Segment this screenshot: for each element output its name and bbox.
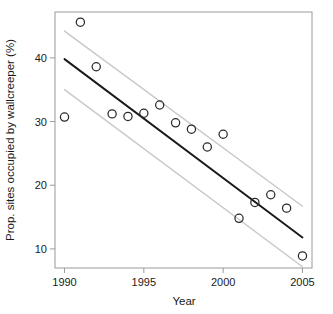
x-tick-label: 1990 <box>52 276 76 288</box>
x-tick-label: 1995 <box>132 276 156 288</box>
chart-figure: 10203040 1990199520002005 Year Prop. sit… <box>0 0 333 314</box>
y-tick-label: 40 <box>35 52 47 64</box>
y-axis-label: Prop. sites occupied by wallcreeper (%) <box>4 39 16 241</box>
x-tick-label: 2005 <box>290 276 314 288</box>
x-tick-label: 2000 <box>211 276 235 288</box>
scatter-plot: 10203040 1990199520002005 Year Prop. sit… <box>0 0 333 314</box>
chart-background <box>0 0 333 314</box>
y-tick-label: 10 <box>35 243 47 255</box>
x-axis-label: Year <box>172 295 195 307</box>
y-tick-label: 30 <box>35 116 47 128</box>
y-tick-label: 20 <box>35 179 47 191</box>
